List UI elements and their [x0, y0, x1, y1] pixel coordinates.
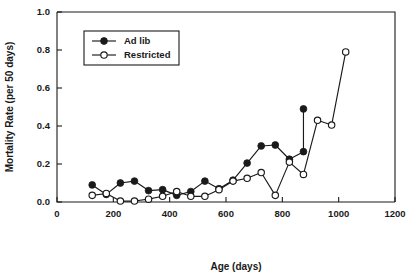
y-axis-title: Mortality Rate (per 50 days) — [4, 42, 15, 173]
series-restricted — [89, 49, 349, 205]
mortality-rate-chart-figure: 020040060080010001200 0.00.20.40.60.81.0… — [0, 0, 414, 277]
data-point — [103, 190, 109, 196]
series-ad-lib — [89, 106, 307, 199]
x-axis-title: Age (days) — [210, 261, 261, 272]
y-tick-label: 0.6 — [37, 82, 50, 93]
data-point — [89, 182, 96, 189]
y-tick-label: 0.2 — [37, 158, 50, 169]
data-point — [244, 160, 251, 167]
data-point — [216, 186, 222, 192]
data-point — [202, 193, 208, 199]
x-tick-label: 0 — [54, 208, 59, 219]
x-tick-label: 1000 — [328, 208, 349, 219]
y-tick-label: 1.0 — [37, 6, 50, 17]
data-point — [300, 171, 306, 177]
legend-label-ad-lib: Ad lib — [124, 35, 151, 46]
data-point — [159, 186, 166, 193]
data-point — [244, 175, 250, 181]
x-axis-tick-labels: 020040060080010001200 — [54, 208, 405, 219]
data-point — [230, 178, 236, 184]
data-point — [145, 187, 152, 194]
data-point — [300, 148, 307, 155]
x-tick-label: 600 — [218, 208, 234, 219]
data-point — [159, 193, 165, 199]
y-axis-ticks — [57, 12, 62, 202]
data-point — [89, 192, 95, 198]
data-series-group — [89, 49, 349, 205]
legend-label-restricted: Restricted — [124, 49, 171, 60]
data-point — [117, 180, 124, 187]
data-point — [145, 196, 151, 202]
y-tick-label: 0.0 — [37, 196, 50, 207]
y-axis-tick-labels: 0.00.20.40.60.81.0 — [37, 6, 51, 207]
data-point — [343, 49, 349, 55]
data-point — [188, 193, 194, 199]
data-point — [258, 169, 264, 175]
chart-legend: Ad libRestricted — [84, 31, 179, 65]
data-point — [117, 198, 123, 204]
data-point — [328, 122, 334, 128]
data-point — [272, 192, 278, 198]
legend-marker-ad-lib — [101, 38, 108, 45]
data-point — [272, 142, 279, 149]
data-point — [174, 188, 180, 194]
y-tick-label: 0.8 — [37, 44, 50, 55]
data-point — [201, 178, 208, 185]
chart-plot-area: 020040060080010001200 0.00.20.40.60.81.0… — [0, 0, 414, 277]
data-point — [300, 106, 307, 113]
legend-marker-restricted — [101, 52, 107, 58]
x-tick-label: 400 — [162, 208, 178, 219]
data-point — [286, 159, 292, 165]
data-point — [258, 143, 265, 150]
y-tick-label: 0.4 — [37, 120, 51, 131]
x-tick-label: 800 — [274, 208, 290, 219]
data-point — [131, 198, 137, 204]
data-point — [314, 117, 320, 123]
x-tick-label: 200 — [105, 208, 121, 219]
data-point — [131, 178, 138, 185]
x-tick-label: 1200 — [384, 208, 405, 219]
